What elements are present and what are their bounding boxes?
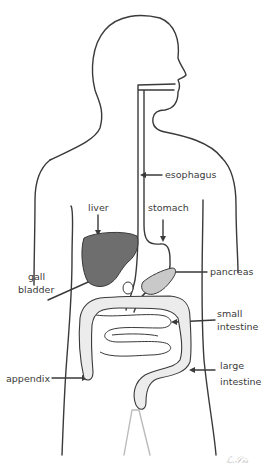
large-intestine-arrowhead [189, 367, 195, 373]
pancreas-label: pancreas [210, 266, 253, 277]
liver-label: liver [88, 202, 109, 213]
stomach-label: stomach [148, 202, 189, 213]
body-outline-drawing [0, 0, 275, 472]
stomach-arrowhead [160, 236, 166, 242]
left-arm-outline [34, 160, 50, 285]
left-torso-outline [62, 206, 73, 455]
digestive-system-diagram: esophagus liver stomach gall bladder pan… [0, 0, 275, 472]
small-intestine-label-line1: small [217, 308, 242, 319]
right-arm-outline [222, 158, 238, 272]
gall-bladder-label-line2: bladder [18, 284, 54, 295]
small-intestine-arrowhead [171, 319, 177, 325]
gall-bladder-label-line1: gall [28, 271, 45, 282]
esophagus-label: esophagus [165, 169, 216, 180]
large-intestine-label-line2: intestine [220, 376, 261, 387]
appendix-label: appendix [6, 373, 50, 384]
artist-signature: ℒ.𝒮𝒾𝓈 [226, 455, 248, 466]
liver-shape [82, 232, 138, 286]
right-torso-outline [202, 200, 216, 455]
small-intestine-coils [96, 315, 171, 357]
legs-gap [124, 410, 150, 455]
pancreas-shape [142, 268, 176, 294]
esophagus-arrowhead [140, 172, 146, 178]
large-intestine-label-line1: large [220, 360, 244, 371]
small-intestine-coils-inner [112, 334, 158, 336]
large-intestine-shape [79, 296, 191, 409]
gallbladder-shape [123, 282, 133, 294]
head-outline [50, 16, 222, 160]
small-intestine-label-line2: intestine [217, 321, 258, 332]
